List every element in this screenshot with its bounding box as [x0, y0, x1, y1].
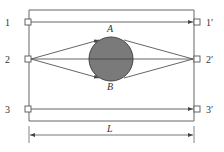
point-b-label: B	[107, 81, 113, 92]
label-2: 2	[5, 54, 10, 65]
receiver-2p	[194, 56, 200, 62]
label-3: 3	[5, 104, 10, 115]
receiver-3p	[194, 106, 200, 112]
transmitter-2	[25, 56, 31, 62]
light-curtain-diagram: 1 2 3 1′ 2′ 3′ A B L	[0, 0, 224, 152]
transmitter-3	[25, 106, 31, 112]
label-1p: 1′	[206, 17, 213, 28]
label-1: 1	[5, 17, 10, 28]
dimension-label: L	[106, 123, 113, 134]
receiver-1p	[194, 19, 200, 25]
transmitter-1	[25, 19, 31, 25]
point-a-label: A	[106, 23, 114, 34]
label-2p: 2′	[206, 54, 213, 65]
label-3p: 3′	[206, 104, 213, 115]
